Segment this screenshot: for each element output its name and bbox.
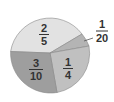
label-three-tenths-den: 10 (30, 70, 42, 82)
label-one-fourth-den: 4 (65, 69, 72, 81)
label-three-tenths-num: 3 (33, 57, 39, 69)
label-one-twentieth-num: 1 (99, 18, 105, 30)
label-one-fourth-num: 1 (65, 56, 71, 68)
label-two-fifths-den: 5 (41, 35, 47, 47)
pie-chart: 2 5 1 20 1 4 3 10 (0, 0, 114, 102)
label-two-fifths-num: 2 (41, 22, 47, 34)
label-one-twentieth-den: 20 (96, 32, 108, 44)
